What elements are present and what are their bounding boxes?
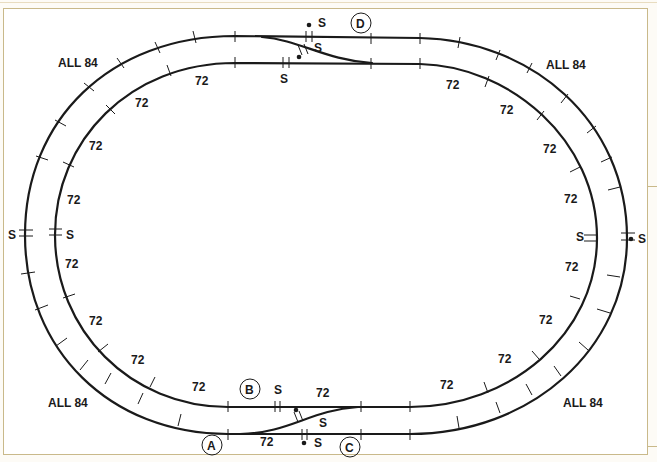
label-s: S <box>314 436 322 450</box>
label-s: S <box>576 230 584 244</box>
feeder-dot-bottom <box>302 441 307 446</box>
label-72: 72 <box>316 386 330 400</box>
label-72: 72 <box>539 313 553 327</box>
label-all84-bottom-right: ALL 84 <box>563 396 603 410</box>
label-s: S <box>638 232 646 246</box>
feeder-dot-top <box>307 23 312 28</box>
label-s: S <box>8 228 16 242</box>
point-b-label: B <box>245 383 254 397</box>
track-layout-diagram: ALL 84 ALL 84 ALL 84 ALL 84 72 72 72 72 … <box>0 0 657 462</box>
label-72: 72 <box>498 352 512 366</box>
label-s: S <box>318 16 326 30</box>
feeder-dot-bottom-crossover <box>294 408 299 413</box>
label-72: 72 <box>67 193 81 207</box>
feeder-dot-top-crossover <box>297 55 302 60</box>
label-72: 72 <box>543 142 557 156</box>
label-72: 72 <box>440 378 454 392</box>
point-b: B <box>240 379 260 399</box>
point-c: C <box>340 437 360 457</box>
point-d-label: D <box>356 17 365 31</box>
label-72: 72 <box>260 435 274 449</box>
point-a-label: A <box>207 439 216 453</box>
label-72: 72 <box>65 257 79 271</box>
label-s: S <box>314 41 322 55</box>
label-72: 72 <box>565 260 579 274</box>
label-72: 72 <box>89 139 103 153</box>
label-all84-top-right: ALL 84 <box>546 58 586 72</box>
radius-72-labels: 72 72 72 72 72 72 72 72 72 72 72 72 72 7… <box>65 74 579 449</box>
label-all84-bottom-left: ALL 84 <box>48 396 88 410</box>
label-72: 72 <box>192 380 206 394</box>
label-72: 72 <box>135 96 149 110</box>
label-s: S <box>274 383 282 397</box>
label-72: 72 <box>131 353 145 367</box>
label-72: 72 <box>195 74 209 88</box>
point-d: D <box>351 13 371 33</box>
feeder-dot-right <box>629 237 634 242</box>
label-all84-top-left: ALL 84 <box>58 56 98 70</box>
point-c-label: C <box>345 441 354 455</box>
track-section-ticks <box>19 31 635 440</box>
label-s: S <box>66 228 74 242</box>
label-72: 72 <box>89 314 103 328</box>
outer-loop-track <box>25 36 627 434</box>
label-s: S <box>280 72 288 86</box>
label-s: S <box>319 416 327 430</box>
label-72: 72 <box>446 78 460 92</box>
point-a: A <box>202 435 222 455</box>
label-72: 72 <box>500 103 514 117</box>
label-72: 72 <box>564 192 578 206</box>
